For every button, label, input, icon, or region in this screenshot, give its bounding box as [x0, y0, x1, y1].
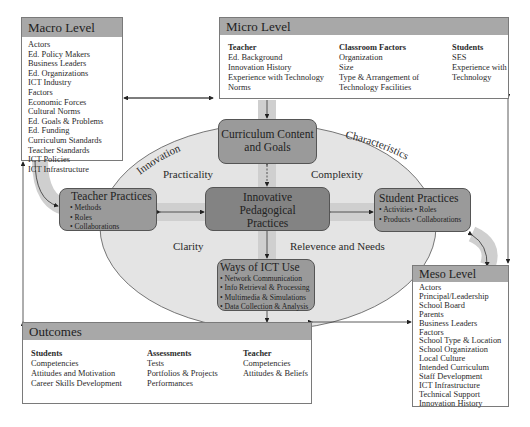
column-heading: Classroom Factors	[339, 43, 419, 53]
list-item: Type & Arrangement of	[339, 73, 419, 83]
label-clarity: Clarity	[173, 240, 204, 252]
node-bullet: • Roles	[60, 213, 156, 223]
meso-level-list: Actors Principal/Leadership School Board…	[413, 282, 508, 412]
micro-level-panel: Micro Level Teacher Ed. Background Innov…	[219, 17, 509, 99]
list-item: Experience with Technology	[228, 73, 324, 83]
list-item: Actors	[28, 40, 116, 50]
ways-of-ict-use-node: Ways of ICT Use • Network Communication …	[217, 259, 315, 311]
meso-level-panel: Meso Level Actors Principal/Leadership S…	[412, 265, 509, 407]
list-item: ICT Policies	[28, 155, 116, 165]
column-heading: Teacher	[243, 349, 308, 359]
list-item: Teacher Standards	[28, 146, 116, 156]
list-item: Competencies	[31, 359, 122, 369]
list-item: Norms	[228, 83, 324, 93]
list-item: Competencies	[243, 359, 308, 369]
node-bullet: • Methods	[60, 203, 156, 213]
outcomes-teacher-column: Teacher Competencies Attitudes & Beliefs	[243, 349, 308, 379]
list-item: Experience with	[452, 63, 507, 73]
outcomes-panel: Outcomes Students Competencies Attitudes…	[22, 322, 312, 404]
label-practicality: Practicality	[163, 168, 213, 180]
macro-level-title: Macro Level	[22, 18, 122, 37]
node-title: Ways of ICT Use	[218, 261, 314, 274]
column-heading: Assessments	[147, 349, 218, 359]
list-item: Ed. Organizations	[28, 69, 116, 79]
list-item: Factors	[28, 88, 116, 98]
list-item: ICT Industry	[28, 78, 116, 88]
list-item: Business Leaders	[28, 59, 116, 69]
list-item: Curriculum Standards	[28, 136, 116, 146]
micro-classroom-column: Classroom Factors Organization Size Type…	[339, 43, 419, 93]
node-bullet: • Info Retrieval & Processing	[218, 283, 314, 292]
micro-students-column: Students SES Experience with Technology	[452, 43, 507, 83]
node-bullet: • Data Collection & Analysis	[218, 302, 314, 311]
list-item: Cultural Norms	[28, 107, 116, 117]
outcomes-students-column: Students Competencies Attitudes and Moti…	[31, 349, 122, 389]
list-item: Career Skills Development	[31, 379, 122, 389]
node-title: Student Practices	[375, 192, 470, 205]
label-complexity: Complexity	[311, 168, 363, 180]
node-bullet: • Network Communication	[218, 274, 314, 283]
list-item: Innovation History	[228, 63, 324, 73]
list-item: Attitudes & Beliefs	[243, 369, 308, 379]
list-item: Ed. Background	[228, 53, 324, 63]
teacher-practices-node: Teacher Practices • Methods • Roles • Co…	[59, 188, 157, 231]
list-item: Ed. Goals & Problems	[28, 117, 116, 127]
curriculum-content-node: Curriculum Content and Goals	[218, 119, 317, 164]
list-item: Ed. Funding	[28, 126, 116, 136]
list-item: Organization	[339, 53, 419, 63]
column-heading: Students	[31, 349, 122, 359]
column-heading: Students	[452, 43, 507, 53]
node-bullet: • Collaborations	[60, 222, 156, 232]
list-item: Ed. Policy Makers	[28, 50, 116, 60]
list-item: Attitudes and Motivation	[31, 369, 122, 379]
list-item: Size	[339, 63, 419, 73]
list-item: Economic Forces	[28, 98, 116, 108]
node-title: Teacher Practices	[60, 190, 156, 203]
node-bullet: • Activities • Roles	[375, 205, 470, 215]
macro-level-list: Actors Ed. Policy Makers Business Leader…	[22, 37, 122, 177]
list-item: Technology Facilities	[339, 83, 419, 93]
node-line: Curriculum Content	[219, 128, 316, 141]
node-bullet: • Products • Collaborations	[375, 215, 470, 225]
outcomes-title: Outcomes	[23, 323, 311, 340]
micro-teacher-column: Teacher Ed. Background Innovation Histor…	[228, 43, 324, 93]
node-bullet: • Multimedia & Simulations	[218, 293, 314, 302]
list-item: Innovation History	[419, 400, 502, 409]
node-line: Pedagogical	[206, 204, 329, 217]
node-line: Practices	[206, 217, 329, 230]
list-item: Performances	[147, 379, 218, 389]
node-line: Innovative	[206, 191, 329, 204]
list-item: Tests	[147, 359, 218, 369]
meso-level-title: Meso Level	[413, 266, 508, 282]
innovative-pedagogical-practices-node: Innovative Pedagogical Practices	[205, 187, 330, 231]
list-item: ICT Infrastructure	[28, 165, 116, 175]
list-item: Technology	[452, 73, 507, 83]
student-practices-node: Student Practices • Activities • Roles •…	[374, 188, 471, 232]
column-heading: Teacher	[228, 43, 324, 53]
outcomes-assessments-column: Assessments Tests Portfolios & Projects …	[147, 349, 218, 389]
node-line: and Goals	[219, 141, 316, 154]
list-item: SES	[452, 53, 507, 63]
label-relevance-and-needs: Relevence and Needs	[290, 240, 385, 252]
list-item: Portfolios & Projects	[147, 369, 218, 379]
micro-level-title: Micro Level	[220, 18, 508, 35]
macro-level-panel: Macro Level Actors Ed. Policy Makers Bus…	[21, 17, 123, 161]
